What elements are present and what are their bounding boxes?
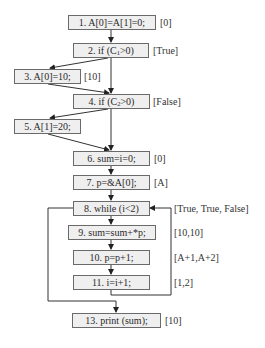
node-1: 1. A[0]=A[1]=0; (68, 15, 156, 30)
node-13-annotation: [10] (165, 314, 182, 327)
node-4-label: 4. if (C (89, 96, 118, 107)
node-10-annotation: [A+1,A+2] (174, 251, 219, 264)
node-5-label: 5. A[1]=20; (24, 121, 71, 132)
control-flow-diagram: 1. A[0]=A[1]=0; [0] 2. if (C1>0) [True] … (0, 0, 265, 348)
node-1-label: 1. A[0]=A[1]=0; (79, 17, 145, 28)
node-11: 11. i=i+1; (73, 275, 150, 290)
node-13-label: 13. print (sum); (85, 315, 148, 326)
node-1-annotation: [0] (160, 16, 172, 29)
node-7: 7. p=&A[0]; (73, 175, 150, 190)
node-2-annotation: [True] (153, 44, 178, 57)
edge-4-5 (50, 109, 108, 118)
edge-5-6 (48, 134, 109, 150)
node-8-annotation: [True, True, False] (174, 202, 249, 215)
edge-2-3 (50, 58, 108, 68)
node-3: 3. A[0]=10; (14, 69, 81, 84)
node-3-label: 3. A[0]=10; (24, 71, 71, 82)
node-3-annotation: [10] (84, 70, 101, 83)
node-9: 9. sum=sum+*p; (68, 225, 156, 240)
node-13: 13. print (sum); (72, 313, 161, 328)
node-8-label: 8. while (i<2) (84, 203, 139, 214)
node-4: 4. if (C2>0) (73, 94, 150, 109)
node-6-label: 6. sum=i=0; (87, 153, 136, 164)
node-11-annotation: [1,2] (174, 276, 193, 289)
node-7-label: 7. p=&A[0]; (86, 177, 136, 188)
node-5: 5. A[1]=20; (14, 119, 81, 134)
edge-3-4 (48, 84, 109, 93)
node-10: 10. p=p+1; (73, 250, 150, 265)
node-2-label: 2. if (C (88, 45, 117, 56)
node-11-label: 11. i=i+1; (92, 277, 131, 288)
node-7-annotation: [A] (154, 176, 168, 189)
node-4-label-post: >0) (120, 96, 134, 107)
node-2: 2. if (C1>0) (73, 43, 149, 58)
node-9-label: 9. sum=sum+*p; (78, 227, 145, 238)
node-9-annotation: [10,10] (174, 226, 203, 239)
node-10-label: 10. p=p+1; (89, 252, 133, 263)
node-8: 8. while (i<2) (73, 201, 150, 216)
node-4-annotation: [False] (153, 95, 181, 108)
node-6-annotation: [0] (154, 152, 166, 165)
node-6: 6. sum=i=0; (73, 151, 150, 166)
node-2-label-post: >0) (120, 45, 134, 56)
